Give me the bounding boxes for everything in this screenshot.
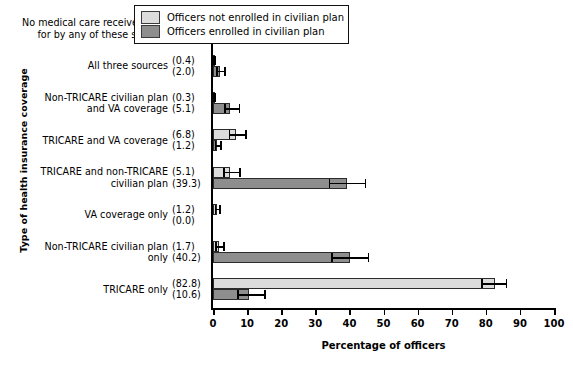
plot-area: 0102030405060708090100 Percentage of off…: [211, 10, 554, 310]
x-tick-mark: [281, 308, 283, 315]
error-bar: [215, 242, 224, 251]
category-label-line: and VA coverage: [18, 103, 168, 114]
legend-label-not-enrolled: Officers not enrolled in civilian plan: [167, 12, 344, 23]
category-label-line: TRICARE only: [18, 284, 168, 295]
error-bar: [215, 141, 222, 150]
value-label-not-enrolled: (5.1): [172, 166, 208, 177]
x-tick-mark: [315, 308, 317, 315]
value-annotation-pair: (1.2)(0.0): [172, 204, 208, 227]
value-label-not-enrolled: (1.7): [172, 241, 208, 252]
error-bar: [223, 168, 240, 177]
bar-enrolled: [213, 178, 347, 189]
error-bar: [229, 130, 247, 139]
y-axis-category-label: Non-TRICARE civilian planonly: [18, 241, 168, 264]
category-label-line: VA coverage only: [18, 209, 168, 220]
bars-layer: [213, 10, 554, 308]
error-bar: [329, 179, 367, 188]
legend-item-enrolled: Officers enrolled in civilian plan: [141, 24, 342, 38]
error-bar: [215, 205, 221, 214]
category-label-line: TRICARE and non-TRICARE: [18, 166, 168, 177]
value-annotation-pair: (0.3)(5.1): [172, 92, 208, 115]
value-annotation-pair: (6.8)(1.2): [172, 129, 208, 152]
category-label-line: Non-TRICARE civilian plan: [18, 241, 168, 252]
x-tick-mark: [520, 308, 522, 315]
value-label-not-enrolled: (82.8): [172, 278, 208, 289]
chart-legend: Officers not enrolled in civilian plan O…: [134, 5, 349, 44]
x-axis-title: Percentage of officers: [213, 340, 554, 351]
x-tick-mark: [247, 308, 249, 315]
value-label-not-enrolled: (0.4): [172, 55, 208, 66]
y-axis-category-label: All three sources: [18, 60, 168, 71]
value-label-enrolled: (2.0): [172, 66, 208, 77]
value-label-not-enrolled: (1.2): [172, 204, 208, 215]
y-axis-category-label: TRICARE and non-TRICAREcivilian plan: [18, 166, 168, 189]
value-annotation-pair: (0.4)(2.0): [172, 55, 208, 78]
value-label-enrolled: (5.1): [172, 103, 208, 114]
value-annotation-column: (1.8)(1.6)(0.4)(2.0)(0.3)(5.1)(6.8)(1.2)…: [172, 10, 208, 308]
error-bar: [481, 279, 507, 288]
value-label-enrolled: (39.3): [172, 178, 208, 189]
error-bar: [213, 93, 216, 102]
legend-item-not-enrolled: Officers not enrolled in civilian plan: [141, 10, 342, 24]
y-axis-category-labels: No medical care received/paidfor by any …: [18, 10, 168, 308]
bar-enrolled: [213, 252, 350, 263]
x-tick-mark: [418, 308, 420, 315]
x-tick-mark: [213, 308, 215, 315]
value-annotation-pair: (5.1)(39.3): [172, 166, 208, 189]
legend-label-enrolled: Officers enrolled in civilian plan: [167, 26, 325, 37]
legend-swatch-light-icon: [141, 11, 160, 24]
category-label-line: TRICARE and VA coverage: [18, 135, 168, 146]
value-label-enrolled: (0.0): [172, 215, 208, 226]
x-tick-mark: [452, 308, 454, 315]
category-label-line: only: [18, 252, 168, 263]
x-tick-label: 100: [534, 318, 573, 329]
error-bar: [331, 253, 369, 262]
value-label-enrolled: (1.2): [172, 140, 208, 151]
error-bar: [237, 290, 265, 299]
error-bar: [224, 104, 240, 113]
value-label-not-enrolled: (0.3): [172, 92, 208, 103]
bar-not-enrolled: [213, 278, 495, 289]
value-annotation-pair: (82.8)(10.6): [172, 278, 208, 301]
value-label-enrolled: (40.2): [172, 252, 208, 263]
category-label-line: civilian plan: [18, 178, 168, 189]
x-tick-mark: [554, 308, 556, 315]
category-label-line: All three sources: [18, 60, 168, 71]
y-axis-category-label: TRICARE only: [18, 284, 168, 295]
x-tick-mark: [349, 308, 351, 315]
x-tick-mark: [384, 308, 386, 315]
value-label-enrolled: (10.6): [172, 289, 208, 300]
x-tick-mark: [486, 308, 488, 315]
error-bar: [213, 56, 216, 65]
category-label-line: Non-TRICARE civilian plan: [18, 92, 168, 103]
y-axis-category-label: Non-TRICARE civilian planand VA coverage: [18, 92, 168, 115]
y-axis-category-label: VA coverage only: [18, 209, 168, 220]
value-annotation-pair: (1.7)(40.2): [172, 241, 208, 264]
error-bar: [216, 67, 226, 76]
chart-figure: Type of health insurance coverage No med…: [0, 0, 573, 371]
value-label-not-enrolled: (6.8): [172, 129, 208, 140]
y-axis-category-label: TRICARE and VA coverage: [18, 135, 168, 146]
legend-swatch-dark-icon: [141, 25, 160, 38]
